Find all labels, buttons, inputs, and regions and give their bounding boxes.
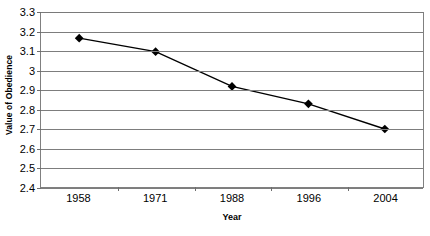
data-point-marker (75, 34, 84, 43)
gridline (41, 71, 423, 72)
y-axis-tick (37, 71, 41, 72)
x-tick-label: 2004 (373, 192, 397, 204)
y-tick-label: 3.3 (14, 7, 38, 18)
y-tick-label: 2.5 (14, 163, 38, 174)
y-axis-tick (37, 149, 41, 150)
line-chart: Value of Obedience 3.33.23.132.92.82.72.… (0, 0, 430, 236)
y-tick-label: 2.6 (14, 143, 38, 154)
x-axis-tick (348, 187, 349, 191)
x-axis-tick (271, 187, 272, 191)
y-axis-tick (37, 168, 41, 169)
x-tick-label: 1971 (143, 192, 167, 204)
gridline (41, 90, 423, 91)
y-axis-tick (37, 90, 41, 91)
x-axis-tick (195, 187, 196, 191)
gridline (41, 32, 423, 33)
series-line-obedience (41, 13, 423, 187)
y-axis-tick (37, 129, 41, 130)
y-tick-label: 3.1 (14, 46, 38, 57)
y-axis-tick (37, 188, 41, 189)
gridline (41, 188, 423, 189)
gridline (41, 51, 423, 52)
y-axis-tick (37, 12, 41, 13)
y-axis-tick-labels: 3.33.23.132.92.82.72.62.52.4 (14, 0, 38, 236)
y-axis-tick (37, 110, 41, 111)
gridline (41, 110, 423, 111)
x-axis-title: Year (40, 212, 424, 222)
y-tick-label: 3.2 (14, 26, 38, 37)
y-tick-label: 3 (14, 65, 38, 76)
y-axis-tick (37, 51, 41, 52)
y-tick-label: 2.9 (14, 85, 38, 96)
x-tick-label: 1958 (66, 192, 90, 204)
gridline (41, 168, 423, 169)
x-tick-label: 1988 (220, 192, 244, 204)
y-tick-label: 2.8 (14, 104, 38, 115)
y-axis-tick (37, 32, 41, 33)
x-tick-label: 1996 (297, 192, 321, 204)
gridline (41, 149, 423, 150)
x-axis-tick-labels: 19581971198819962004 (40, 192, 424, 208)
gridline (41, 129, 423, 130)
y-axis-title-label: Value of Obedience (4, 55, 14, 135)
plot-area (40, 12, 424, 188)
data-point-marker (304, 100, 313, 109)
y-tick-label: 2.7 (14, 124, 38, 135)
y-tick-label: 2.4 (14, 183, 38, 194)
x-axis-tick (118, 187, 119, 191)
